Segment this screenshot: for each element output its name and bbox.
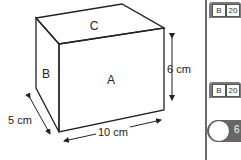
badge-left-page: B <box>212 84 226 97</box>
badge-left-page: B <box>212 4 226 17</box>
face-label-a: A <box>107 73 115 87</box>
badge-right-page: 20 <box>226 84 240 97</box>
sidebar-divider <box>205 0 207 160</box>
cuboid-diagram: C B A 6 cm 5 cm 10 cm <box>0 0 200 160</box>
width-label: 10 cm <box>98 126 128 138</box>
depth-label: 5 cm <box>8 114 32 126</box>
face-label-c: C <box>90 19 99 33</box>
book-reference-badge: B 20 <box>207 2 241 20</box>
badge-right-page: 20 <box>226 4 240 17</box>
exercise-marker-circle <box>208 120 230 142</box>
height-label: 6 cm <box>167 63 191 75</box>
cuboid <box>36 4 164 132</box>
width-arrow-left <box>64 134 96 141</box>
face-label-b: B <box>42 67 50 81</box>
book-reference-badge: B 20 <box>207 82 241 100</box>
exercise-marker-text: 6 <box>234 124 240 135</box>
width-arrow-right <box>130 120 161 127</box>
depth-arrow <box>30 98 50 134</box>
